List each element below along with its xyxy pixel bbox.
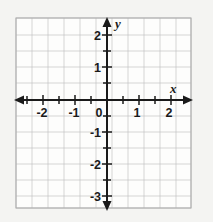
y-tick-label-pos1: 1: [94, 61, 101, 75]
y-tick-label-pos2: 2: [94, 29, 101, 43]
x-axis-label: x: [169, 81, 177, 96]
coordinate-plane-svg: y x -2 -1 1 2 0 2 1 -1 -2 -3: [0, 0, 213, 222]
x-tick-label-neg2: -2: [36, 106, 47, 120]
x-tick-label-pos1: 1: [134, 106, 141, 120]
x-tick-label-pos2: 2: [166, 106, 173, 120]
origin-label: 0: [96, 106, 103, 120]
x-tick-label-neg1: -1: [68, 106, 79, 120]
y-axis-label: y: [113, 16, 121, 31]
y-tick-label-neg2: -2: [90, 158, 101, 172]
y-tick-label-neg1: -1: [90, 126, 101, 140]
y-tick-label-neg3: -3: [90, 190, 101, 204]
coordinate-grid-figure: y x -2 -1 1 2 0 2 1 -1 -2 -3: [0, 0, 213, 222]
